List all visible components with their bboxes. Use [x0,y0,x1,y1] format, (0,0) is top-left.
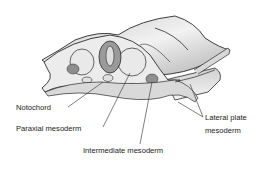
embryo-cross-section-diagram [0,0,271,170]
label-notochord: Notochord [16,104,51,112]
label-lateral-plate: Lateral plate [205,114,247,122]
label-lateral-plate-mesoderm: mesoderm [205,127,241,135]
label-intermediate-mesoderm: Intermediate mesoderm [83,147,163,155]
label-paraxial-mesoderm: Paraxial mesoderm [16,125,81,133]
